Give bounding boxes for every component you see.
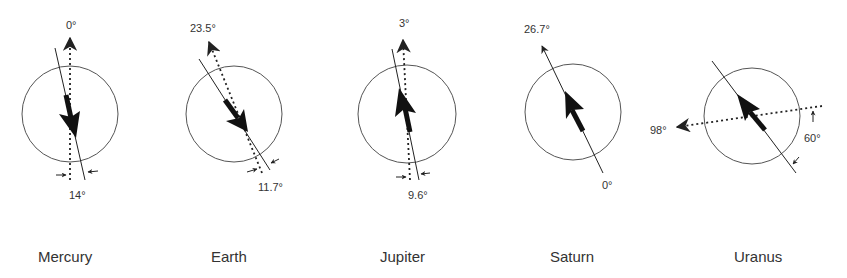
angle-arrow-icon (271, 159, 279, 163)
rotation-tilt-label: 98° (650, 124, 667, 136)
magnetic-arrow-shaft (572, 110, 583, 131)
magnetic-arrow-shaft (225, 100, 238, 118)
angle-arrow-icon (247, 169, 257, 172)
magnetic-tilt-label: 11.7° (258, 181, 283, 193)
rotation-tilt-label: 26.7° (524, 23, 550, 35)
magnetic-tilt-label: 0° (602, 179, 613, 191)
angle-arrow-icon (88, 171, 98, 172)
magnetic-arrow-shaft (405, 108, 410, 132)
earth-diagram: 23.5° 11.7° Earth (186, 22, 283, 265)
rotation-axis-dotted (209, 42, 262, 173)
magnetic-tilt-label: 14° (69, 189, 86, 201)
uranus-diagram: 98° 60° Uranus (650, 61, 822, 265)
jupiter-diagram: 3° 9.6° Jupiter (358, 17, 456, 265)
magnetic-tilt-label: 60° (804, 132, 821, 144)
planet-name: Jupiter (380, 248, 425, 265)
planet-name: Earth (211, 248, 247, 265)
planet-name: Uranus (734, 248, 782, 265)
magnetic-tilt-label: 9.6° (408, 189, 428, 201)
angle-arrow-icon (421, 173, 430, 174)
mercury-diagram: 0° 14° Mercury (22, 19, 118, 265)
planet-magnetic-field-diagram: 0° 14° Mercury 23.5° 11.7° Earth 3° 9.6°… (0, 0, 847, 278)
rotation-tilt-label: 23.5° (190, 22, 216, 34)
rotation-tilt-label: 0° (66, 19, 77, 31)
planet-name: Saturn (550, 248, 594, 265)
angle-arrow-icon (793, 157, 799, 164)
saturn-diagram: 26.7° 0° Saturn (524, 23, 621, 265)
planet-name: Mercury (38, 248, 93, 265)
rotation-tilt-label: 3° (399, 17, 410, 29)
